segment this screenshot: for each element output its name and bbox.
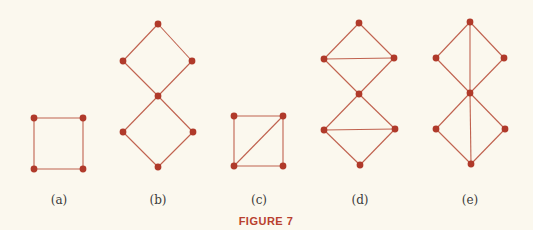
graph-vertex (356, 20, 363, 27)
graph-edge (324, 129, 395, 130)
graph-edge (324, 94, 359, 130)
graph-vertex (321, 127, 328, 134)
graph-edge (359, 58, 394, 94)
graph-edge (436, 58, 470, 93)
graph-edge (470, 93, 505, 129)
graph-edge (123, 61, 158, 96)
graph-vertex (190, 129, 197, 136)
graph-c: (c) (231, 113, 287, 207)
graph-edge (123, 132, 158, 167)
graph-vertex (155, 164, 162, 171)
graph-vertex (189, 58, 196, 65)
graph-edge (324, 130, 360, 165)
graph-vertex (155, 21, 162, 28)
graph-vertex (468, 161, 475, 168)
graph-vertex (155, 93, 162, 100)
figure-canvas: (a)(b)(c)(d)(e) FIGURE 7 (0, 0, 533, 230)
graph-vertex (467, 90, 474, 97)
graph-vertex (120, 129, 127, 136)
graph-e: (e) (433, 19, 509, 207)
graph-vertex (120, 58, 127, 65)
graph-edge (324, 23, 359, 59)
graph-edge (471, 129, 505, 164)
graph-vertex (391, 55, 398, 62)
graph-edge (158, 96, 193, 132)
graph-a: (a) (31, 115, 87, 207)
graph-label-a: (a) (51, 193, 68, 207)
graph-edge (123, 24, 158, 61)
graph-edge (324, 58, 394, 59)
graph-edge (158, 24, 192, 61)
graph-vertex (31, 166, 38, 173)
graph-d: (d) (321, 20, 399, 207)
graph-label-e: (e) (462, 193, 478, 207)
graph-edge (324, 59, 359, 94)
graph-edge (158, 132, 193, 167)
graph-vertex (467, 19, 474, 26)
graph-edge (359, 23, 394, 58)
graph-edge (360, 129, 395, 165)
graph-vertex (280, 163, 287, 170)
figure-caption: FIGURE 7 (239, 215, 294, 227)
graph-label-c: (c) (251, 193, 267, 207)
graph-edge (470, 93, 471, 164)
graph-edge (470, 22, 504, 58)
graph-edge (234, 116, 283, 166)
graph-vertex (231, 113, 238, 120)
graph-b: (b) (120, 21, 197, 207)
graph-edge (470, 58, 504, 93)
graph-label-b: (b) (149, 193, 166, 207)
graph-edge (436, 93, 470, 129)
graph-vertex (502, 126, 509, 133)
graph-edge (359, 94, 395, 129)
graph-vertex (280, 113, 287, 120)
graph-vertex (321, 56, 328, 63)
graph-vertex (357, 162, 364, 169)
graph-edge (158, 61, 192, 96)
graph-label-d: (d) (351, 193, 368, 207)
graph-vertex (80, 166, 87, 173)
graph-edge (436, 129, 471, 164)
graph-vertex (392, 126, 399, 133)
graph-vertex (356, 91, 363, 98)
graph-vertex (433, 55, 440, 62)
graph-vertex (31, 115, 38, 122)
graph-edge (436, 22, 470, 58)
graph-vertex (231, 163, 238, 170)
graphs-layer: (a)(b)(c)(d)(e) (31, 19, 509, 207)
graph-vertex (80, 115, 87, 122)
graph-edge (123, 96, 158, 132)
graph-vertex (433, 126, 440, 133)
graph-vertex (501, 55, 508, 62)
